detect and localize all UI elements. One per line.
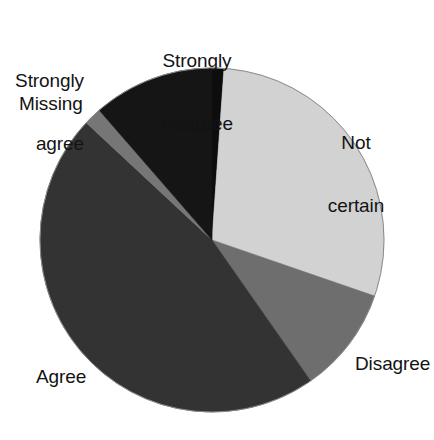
pie-label-agree: Agree [36, 366, 86, 387]
pie-label-disagree: Disagree [355, 353, 430, 374]
pie-label-not-certain: Not certain [328, 89, 384, 259]
pie-label-strongly-agree-line2: agree [15, 133, 84, 154]
pie-label-strongly-disagree-line2: disagree [161, 113, 233, 134]
pie-label-strongly-disagree-line1: Strongly [161, 50, 233, 71]
pie-chart-figure: Strongly disagree Strongly agree Missing… [0, 0, 434, 440]
pie-label-strongly-agree-line1: Strongly [15, 70, 84, 91]
pie-label-strongly-disagree: Strongly disagree [161, 7, 233, 177]
pie-label-not-certain-line2: certain [328, 195, 384, 216]
pie-label-not-certain-line1: Not [328, 132, 384, 153]
pie-label-missing: Missing [19, 93, 83, 114]
